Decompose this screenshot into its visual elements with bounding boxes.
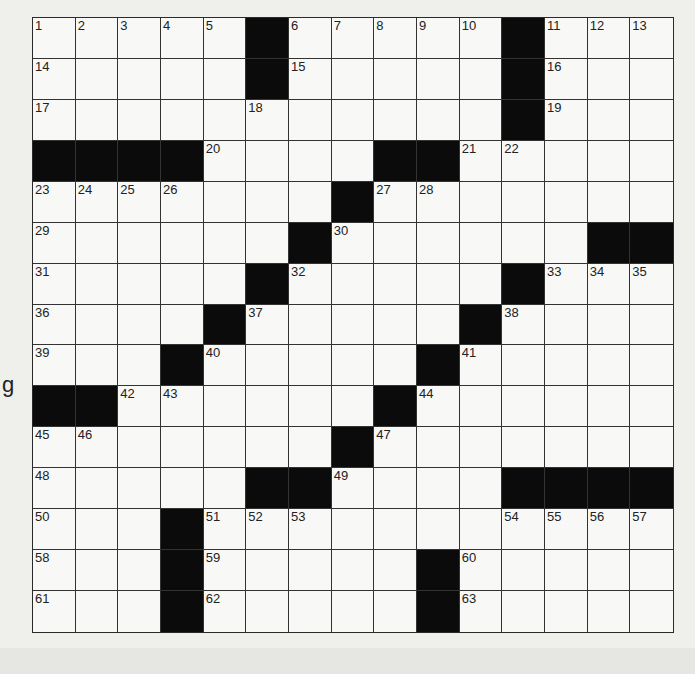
grid-cell[interactable]: 42: [118, 386, 161, 427]
grid-cell[interactable]: 29: [33, 223, 76, 264]
grid-cell[interactable]: 57: [630, 509, 673, 550]
grid-cell[interactable]: 21: [460, 141, 503, 182]
grid-cell[interactable]: [332, 100, 375, 141]
grid-cell[interactable]: [417, 264, 460, 305]
grid-cell[interactable]: 33: [545, 264, 588, 305]
grid-cell[interactable]: [417, 305, 460, 346]
grid-cell[interactable]: [118, 427, 161, 468]
grid-cell[interactable]: [118, 591, 161, 632]
grid-cell[interactable]: [161, 468, 204, 509]
grid-cell[interactable]: 46: [76, 427, 119, 468]
grid-cell[interactable]: [630, 141, 673, 182]
grid-cell[interactable]: [502, 427, 545, 468]
grid-cell[interactable]: 8: [374, 18, 417, 59]
grid-cell[interactable]: [76, 550, 119, 591]
grid-cell[interactable]: 7: [332, 18, 375, 59]
grid-cell[interactable]: [118, 264, 161, 305]
grid-cell[interactable]: [118, 100, 161, 141]
grid-cell[interactable]: [76, 345, 119, 386]
grid-cell[interactable]: [460, 468, 503, 509]
grid-cell[interactable]: [588, 59, 631, 100]
grid-cell[interactable]: 22: [502, 141, 545, 182]
grid-cell[interactable]: [246, 141, 289, 182]
grid-cell[interactable]: 31: [33, 264, 76, 305]
grid-cell[interactable]: 40: [204, 345, 247, 386]
grid-cell[interactable]: [246, 591, 289, 632]
grid-cell[interactable]: [502, 223, 545, 264]
grid-cell[interactable]: [588, 591, 631, 632]
grid-cell[interactable]: 55: [545, 509, 588, 550]
grid-cell[interactable]: [502, 182, 545, 223]
grid-cell[interactable]: [289, 182, 332, 223]
grid-cell[interactable]: [289, 141, 332, 182]
grid-cell[interactable]: 9: [417, 18, 460, 59]
grid-cell[interactable]: [374, 468, 417, 509]
grid-cell[interactable]: [417, 59, 460, 100]
grid-cell[interactable]: [161, 305, 204, 346]
grid-cell[interactable]: [545, 591, 588, 632]
grid-cell[interactable]: [332, 591, 375, 632]
grid-cell[interactable]: 58: [33, 550, 76, 591]
grid-cell[interactable]: [630, 386, 673, 427]
grid-cell[interactable]: [588, 386, 631, 427]
grid-cell[interactable]: [374, 509, 417, 550]
grid-cell[interactable]: [460, 427, 503, 468]
grid-cell[interactable]: 4: [161, 18, 204, 59]
grid-cell[interactable]: [332, 59, 375, 100]
grid-cell[interactable]: 48: [33, 468, 76, 509]
grid-cell[interactable]: [417, 100, 460, 141]
grid-cell[interactable]: [630, 345, 673, 386]
grid-cell[interactable]: [289, 100, 332, 141]
grid-cell[interactable]: 24: [76, 182, 119, 223]
grid-cell[interactable]: 43: [161, 386, 204, 427]
grid-cell[interactable]: [204, 264, 247, 305]
grid-cell[interactable]: [588, 305, 631, 346]
grid-cell[interactable]: [118, 550, 161, 591]
grid-cell[interactable]: [76, 223, 119, 264]
grid-cell[interactable]: [588, 550, 631, 591]
grid-cell[interactable]: [332, 386, 375, 427]
grid-cell[interactable]: [374, 223, 417, 264]
grid-cell[interactable]: 25: [118, 182, 161, 223]
grid-cell[interactable]: [588, 345, 631, 386]
grid-cell[interactable]: 56: [588, 509, 631, 550]
grid-cell[interactable]: [374, 59, 417, 100]
grid-cell[interactable]: [588, 427, 631, 468]
grid-cell[interactable]: [118, 59, 161, 100]
grid-cell[interactable]: [502, 386, 545, 427]
grid-cell[interactable]: [332, 345, 375, 386]
grid-cell[interactable]: [502, 591, 545, 632]
grid-cell[interactable]: [332, 141, 375, 182]
grid-cell[interactable]: [204, 182, 247, 223]
grid-cell[interactable]: 53: [289, 509, 332, 550]
grid-cell[interactable]: [204, 59, 247, 100]
grid-cell[interactable]: [246, 223, 289, 264]
grid-cell[interactable]: [630, 100, 673, 141]
grid-cell[interactable]: 12: [588, 18, 631, 59]
grid-cell[interactable]: 63: [460, 591, 503, 632]
grid-cell[interactable]: 20: [204, 141, 247, 182]
grid-cell[interactable]: [76, 305, 119, 346]
grid-cell[interactable]: 54: [502, 509, 545, 550]
grid-cell[interactable]: [460, 100, 503, 141]
grid-cell[interactable]: [246, 386, 289, 427]
grid-cell[interactable]: [545, 427, 588, 468]
grid-cell[interactable]: [374, 305, 417, 346]
grid-cell[interactable]: [545, 345, 588, 386]
grid-cell[interactable]: [502, 550, 545, 591]
grid-cell[interactable]: 1: [33, 18, 76, 59]
grid-cell[interactable]: [161, 100, 204, 141]
grid-cell[interactable]: [289, 591, 332, 632]
grid-cell[interactable]: 18: [246, 100, 289, 141]
grid-cell[interactable]: 45: [33, 427, 76, 468]
grid-cell[interactable]: [332, 550, 375, 591]
grid-cell[interactable]: [332, 509, 375, 550]
grid-cell[interactable]: [76, 591, 119, 632]
grid-cell[interactable]: [630, 591, 673, 632]
grid-cell[interactable]: [161, 59, 204, 100]
grid-cell[interactable]: 50: [33, 509, 76, 550]
grid-cell[interactable]: [460, 386, 503, 427]
grid-cell[interactable]: [289, 427, 332, 468]
grid-cell[interactable]: [545, 550, 588, 591]
grid-cell[interactable]: [417, 223, 460, 264]
